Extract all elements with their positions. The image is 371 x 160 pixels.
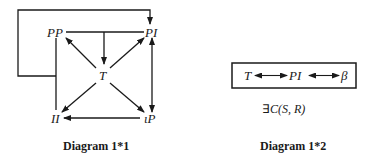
node-t-2: T: [244, 69, 251, 82]
existence-formula: ∃C(S, R): [262, 103, 305, 115]
t-to-ip-arrow: [110, 83, 144, 112]
diagram-2-caption: Diagram 1*2: [260, 140, 326, 152]
node-beta: β: [341, 69, 347, 82]
diagram-1: [18, 10, 152, 118]
diagram-1-caption: Diagram 1*1: [63, 140, 129, 152]
loop-arrow: [18, 10, 150, 76]
diagram-canvas: [0, 0, 371, 160]
node-pp: PP: [47, 26, 63, 39]
t-to-ii-arrow: [62, 83, 96, 112]
exists-symbol: ∃: [262, 102, 270, 116]
node-t: T: [99, 69, 106, 82]
node-pi: PI: [145, 26, 157, 39]
node-pi-2: PI: [289, 69, 301, 82]
node-ip: ιP: [144, 112, 156, 125]
t-to-pp-arrow: [66, 38, 96, 68]
formula-text: C(S, R): [270, 102, 305, 116]
node-ii: II: [51, 112, 60, 125]
t-to-pi-arrow: [110, 38, 144, 68]
